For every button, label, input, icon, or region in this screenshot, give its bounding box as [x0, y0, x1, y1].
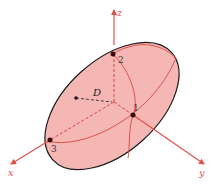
- point-1-label: 1: [133, 103, 139, 113]
- point-1: [131, 113, 136, 118]
- z-axis-label: z: [116, 7, 123, 18]
- x-axis-label: x: [8, 167, 14, 178]
- x-axis: [11, 140, 50, 164]
- ellipsoid-diagram: z x y 2 1 3 D: [0, 0, 212, 185]
- distance-label: D: [92, 87, 101, 98]
- y-axis-label: y: [198, 167, 205, 178]
- point-2: [111, 52, 116, 57]
- point-3-label: 3: [51, 144, 57, 154]
- point-3: [48, 138, 53, 143]
- point-2-label: 2: [118, 55, 124, 65]
- point-d: [74, 96, 78, 100]
